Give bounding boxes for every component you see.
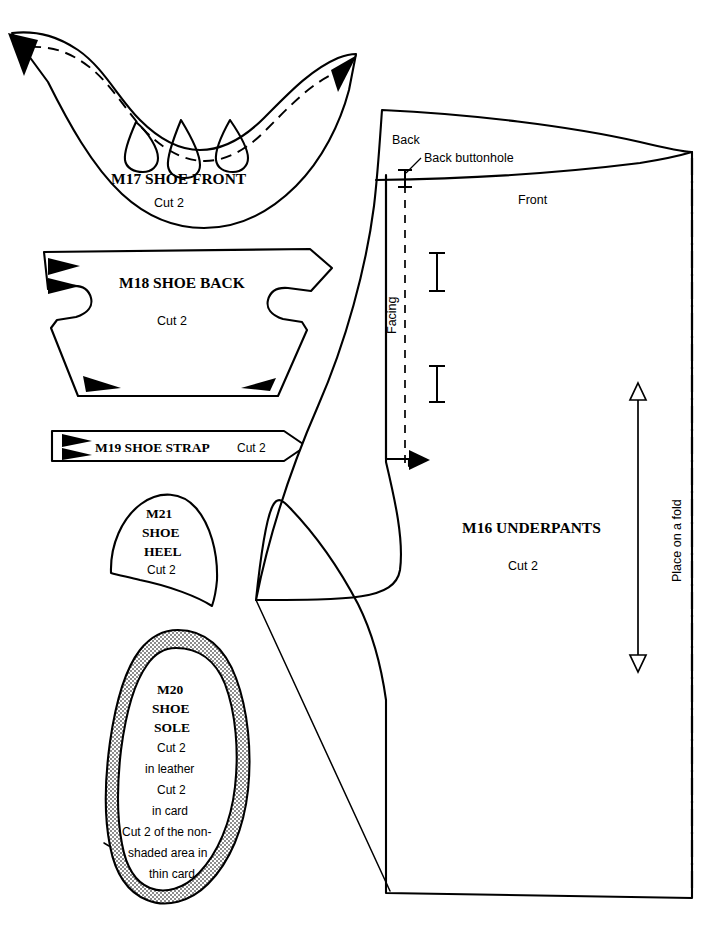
m20-instruction-6: thin card xyxy=(149,867,195,881)
m16-back-buttonhole-label: Back buttonhole xyxy=(424,151,514,165)
piece-m19-shoe-strap[interactable]: M19 SHOE STRAP Cut 2 xyxy=(52,431,306,461)
m20-name-2: SOLE xyxy=(154,720,190,735)
m20-instruction-4: Cut 2 of the non- xyxy=(122,825,211,839)
piece-m20-shoe-sole[interactable]: M20 SHOE SOLE Cut 2 in leather Cut 2 in … xyxy=(104,630,250,903)
piece-m17-shoe-front[interactable]: M17 SHOE FRONT Cut 2 xyxy=(8,32,357,228)
m20-instruction-5: shaded area in xyxy=(128,846,207,860)
m16-outline xyxy=(256,110,692,898)
m20-instruction-0: Cut 2 xyxy=(157,741,186,755)
m16-facing-label: Facing xyxy=(385,296,399,334)
m20-code: M20 xyxy=(157,682,183,697)
m18-outline xyxy=(44,249,332,396)
m17-outline xyxy=(12,32,356,228)
m20-tick-mark xyxy=(104,843,109,846)
m21-cut-label: Cut 2 xyxy=(147,563,176,577)
m16-hem-inner-line xyxy=(256,600,390,891)
m16-back-label: Back xyxy=(392,133,421,147)
m16-cut-label: Cut 2 xyxy=(508,559,538,573)
m21-name-1: SHOE xyxy=(142,525,180,540)
m18-cut-label: Cut 2 xyxy=(157,314,187,328)
piece-m21-shoe-heel[interactable]: M21 SHOE HEEL Cut 2 xyxy=(111,495,217,606)
m20-name-1: SHOE xyxy=(152,701,190,716)
m16-front-label: Front xyxy=(518,193,548,207)
m20-instruction-3: in card xyxy=(152,804,188,818)
m16-place-on-fold-label: Place on a fold xyxy=(670,499,684,582)
m20-instruction-2: Cut 2 xyxy=(157,783,186,797)
m19-cut-label: Cut 2 xyxy=(237,441,266,455)
m20-instruction-1: in leather xyxy=(145,762,194,776)
piece-m18-shoe-back[interactable]: M18 SHOE BACK Cut 2 xyxy=(44,249,332,396)
m21-code: M21 xyxy=(146,506,172,521)
m18-heading: M18 SHOE BACK xyxy=(119,274,245,291)
m19-heading: M19 SHOE STRAP xyxy=(95,440,210,455)
m17-heading: M17 SHOE FRONT xyxy=(111,170,247,187)
piece-m16-underpants[interactable]: Back Back buttonhole Front Facing Place … xyxy=(256,110,692,898)
m16-heading: M16 UNDERPANTS xyxy=(462,519,601,536)
pattern-sheet: M17 SHOE FRONT Cut 2 M18 SHOE BACK Cut 2… xyxy=(0,0,725,929)
m17-cut-label: Cut 2 xyxy=(154,196,184,210)
m21-name-2: HEEL xyxy=(144,544,182,559)
